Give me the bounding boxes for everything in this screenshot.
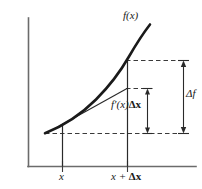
delta-f-arrowhead-up [181,61,186,68]
function-curve [45,25,150,134]
curve-label: f(x) [123,10,138,21]
linear-increment-label-suffix: Δx [129,98,141,110]
axes-group [28,18,196,167]
linear-increment-arrowhead-up [145,89,150,95]
x-plus-dx-tick-label-delta: Δx [129,170,141,182]
x-tick-label-text: x [59,170,64,182]
curve-label-text: f(x) [123,9,138,21]
derivative-increment-figure: f(x) Δf f′(x)Δx x x + Δx [0,0,202,189]
x-plus-dx-tick-label: x + Δx [111,171,141,182]
linear-increment-arrowhead-down [145,128,150,134]
linear-increment-measure-arrow [143,89,153,134]
linear-increment-label-prefix: f′(x) [111,98,129,110]
delta-f-label: Δf [186,88,196,99]
x-plus-dx-tick-label-base: x + [111,170,129,182]
delta-f-arrowhead-down [181,127,186,134]
delta-f-label-text: Δf [186,87,196,99]
linear-increment-label: f′(x)Δx [111,99,141,110]
x-tick-label: x [59,171,64,182]
figure-canvas [0,0,202,189]
